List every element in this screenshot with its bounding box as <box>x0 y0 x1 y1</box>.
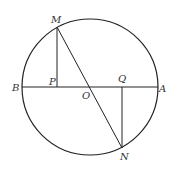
label-o: O <box>82 90 90 101</box>
label-b: B <box>11 82 19 93</box>
label-a: A <box>158 83 166 94</box>
label-q: Q <box>118 73 126 84</box>
diagram-svg: M B P O Q A N <box>0 0 177 171</box>
geometry-diagram: M B P O Q A N <box>0 0 177 171</box>
label-p: P <box>48 76 56 87</box>
label-n: N <box>119 151 130 162</box>
label-m: M <box>50 14 62 25</box>
